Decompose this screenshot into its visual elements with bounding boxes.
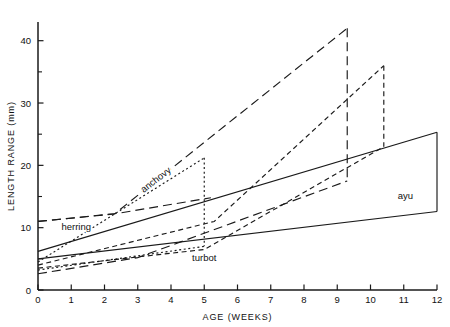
- series-upper-anchovy: [38, 158, 204, 262]
- x-tick-label-2: 2: [102, 294, 107, 305]
- series-lower-herring: [38, 147, 384, 269]
- x-tick-label-7: 7: [268, 294, 273, 305]
- series-lower-anchovy: [38, 246, 204, 270]
- y-tick-label-30: 30: [20, 98, 31, 109]
- extra-line-herring-upper-band: [38, 198, 211, 222]
- chart-figure: 0123456789101112010203040AGE (WEEKS)LENG…: [0, 0, 450, 327]
- y-tick-label-0: 0: [26, 285, 31, 296]
- series-upper-herring: [38, 66, 384, 265]
- x-tick-label-1: 1: [69, 294, 74, 305]
- length-range-vs-age-chart: 0123456789101112010203040AGE (WEEKS)LENG…: [0, 0, 450, 327]
- x-tick-label-5: 5: [202, 294, 207, 305]
- x-tick-label-3: 3: [135, 294, 140, 305]
- series-lower-ayu: [38, 211, 437, 258]
- x-tick-label-8: 8: [301, 294, 306, 305]
- x-tick-label-11: 11: [399, 294, 409, 305]
- series-label-turbot: turbot: [192, 252, 217, 263]
- x-tick-label-6: 6: [235, 294, 240, 305]
- x-tick-label-0: 0: [35, 294, 40, 305]
- y-tick-label-40: 40: [20, 35, 31, 46]
- series-label-herring: herring: [61, 221, 91, 232]
- series-upper-turbot: [38, 28, 347, 221]
- series-label-anchovy: anchovy: [138, 164, 173, 195]
- x-tick-label-4: 4: [168, 294, 173, 305]
- y-tick-label-10: 10: [20, 222, 31, 233]
- x-tick-label-10: 10: [365, 294, 376, 305]
- y-tick-label-20: 20: [20, 160, 31, 171]
- x-axis-title: AGE (WEEKS): [203, 312, 273, 322]
- x-tick-label-12: 12: [432, 294, 443, 305]
- y-axis-title: LENGTH RANGE (mm): [6, 101, 16, 211]
- series-label-ayu: ayu: [398, 190, 413, 201]
- x-tick-label-9: 9: [335, 294, 340, 305]
